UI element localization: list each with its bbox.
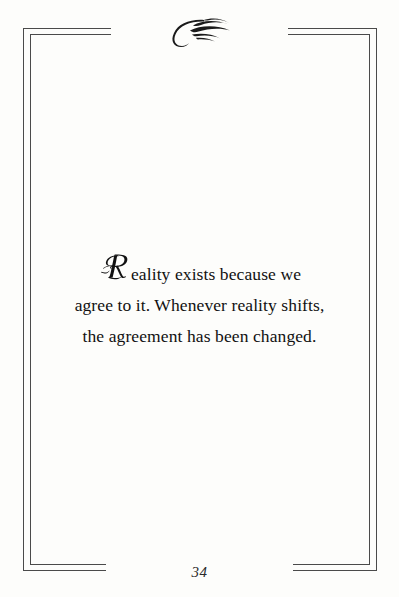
frame-inner-top-right-segment [288,34,369,35]
quote-line-1: eality exists because we [48,250,351,290]
quote-line-3: the agreement has been changed. [48,321,351,352]
frame-inner-right-edge [369,34,370,565]
flourish-ornament [160,12,240,52]
page-number: 34 [0,564,399,581]
frame-outer-right-edge [376,28,377,571]
drop-cap-letter [98,252,132,292]
frame-outer-top-left-segment [23,28,111,29]
quotation-text: eality exists because we agree to it. Wh… [48,250,351,352]
frame-outer-left-edge [23,28,24,571]
book-page: eality exists because we agree to it. Wh… [0,0,399,597]
frame-inner-left-edge [30,34,31,565]
flourish-ornament-icon [160,12,240,52]
script-capital-r-icon [98,252,132,282]
quote-line-2: agree to it. Whenever reality shifts, [48,290,351,321]
frame-inner-top-left-segment [30,34,111,35]
quote-line-1-text: eality exists because we [131,264,301,284]
frame-outer-top-right-segment [288,28,376,29]
